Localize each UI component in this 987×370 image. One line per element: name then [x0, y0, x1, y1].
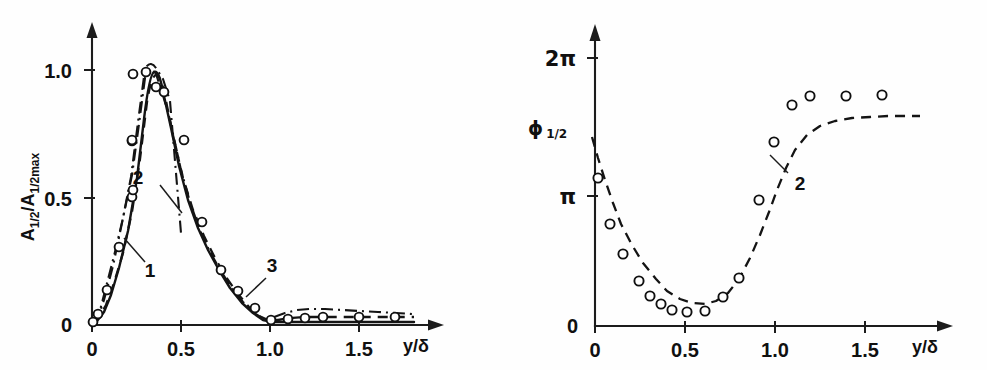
data-point	[142, 68, 151, 77]
left-data-points	[89, 68, 400, 327]
ylabel-A1: A	[18, 228, 38, 241]
right-xtick-label-15: 1.5	[851, 339, 879, 361]
data-point	[805, 91, 814, 100]
left-xtick-label-0: 0	[86, 338, 97, 360]
data-point	[234, 287, 243, 296]
data-point	[656, 299, 665, 308]
data-point	[605, 219, 614, 228]
ylabel-sub-1: 1/2	[28, 211, 42, 228]
data-point	[618, 249, 627, 258]
data-point	[754, 195, 763, 204]
left-xtick-label-10: 1.0	[256, 338, 284, 360]
left-y-axis-title: A1/2/A1/2max	[18, 152, 42, 241]
data-point	[769, 137, 778, 146]
axis-arrow-icon	[87, 22, 98, 38]
data-point	[718, 292, 727, 301]
right-ytick-label-0: 0	[567, 315, 578, 337]
axis-arrow-icon	[590, 24, 601, 41]
leader-line-3	[246, 278, 266, 297]
data-point	[682, 307, 691, 316]
curve-2-dashed-right	[592, 116, 920, 304]
right-data-points	[593, 90, 886, 316]
svg-text:A1/2/A1/2max: A1/2/A1/2max	[18, 152, 42, 241]
data-point	[734, 273, 743, 282]
data-point	[198, 218, 207, 227]
left-y-axis	[87, 22, 98, 325]
left-xtick-label-15: 1.5	[345, 338, 373, 360]
left-chart-svg: 1.0 0.5 0 0 0.5 1.0 1.5 y/δ A1/2/A1/2max…	[0, 0, 470, 370]
data-point	[787, 100, 796, 109]
data-point	[645, 291, 654, 300]
right-y-axis-title: ϕ1/2	[528, 117, 567, 141]
right-ytick-label-pi: π	[559, 185, 576, 209]
phi-symbol: ϕ	[528, 117, 543, 139]
svg-text:π: π	[559, 185, 576, 209]
chart-panel-left: 1.0 0.5 0 0 0.5 1.0 1.5 y/δ A1/2/A1/2max…	[0, 0, 470, 370]
right-xtick-label-0: 0	[589, 339, 600, 361]
leader-line-2-right	[770, 155, 788, 173]
data-point	[593, 173, 602, 182]
data-point	[128, 136, 137, 145]
left-xtick-label-05: 0.5	[167, 338, 195, 360]
curve-label-3: 3	[267, 255, 278, 276]
data-point	[634, 276, 643, 285]
data-point	[667, 305, 676, 314]
data-point	[319, 313, 328, 322]
data-point	[355, 313, 364, 322]
data-point	[129, 70, 138, 79]
axis-arrow-icon	[428, 320, 444, 331]
curve-label-2: 2	[133, 167, 144, 188]
figure-root: 1.0 0.5 0 0 0.5 1.0 1.5 y/δ A1/2/A1/2max…	[0, 0, 987, 370]
right-xtick-label-10: 1.0	[761, 339, 789, 361]
curve-label-2-right: 2	[795, 173, 806, 194]
right-chart-svg: 2π π 0 0 0.5 1.0 1.5 y/δ ϕ1/2 2	[520, 0, 987, 370]
data-point	[115, 243, 124, 252]
data-point	[700, 306, 709, 315]
data-point	[160, 88, 169, 97]
axis-arrow-icon	[937, 321, 953, 332]
ylabel-sub-2: 1/2max	[28, 152, 42, 193]
curve-3-dashdot-main	[93, 70, 412, 322]
leader-line-1	[124, 238, 145, 262]
data-point	[267, 316, 276, 325]
data-point	[217, 266, 226, 275]
right-ytick-label-2pi: 2π	[545, 47, 576, 71]
data-point	[391, 313, 400, 322]
data-point	[841, 91, 850, 100]
data-point	[103, 286, 112, 295]
data-point	[180, 136, 189, 145]
phi-subscript: 1/2	[546, 127, 567, 141]
curve-label-1: 1	[145, 260, 156, 281]
ylabel-mid: /A	[18, 194, 38, 212]
chart-panel-right: 2π π 0 0 0.5 1.0 1.5 y/δ ϕ1/2 2	[520, 0, 987, 370]
data-point	[251, 304, 260, 313]
svg-text:ϕ1/2: ϕ1/2	[528, 117, 567, 141]
left-x-axis-title: y/δ	[403, 336, 429, 356]
svg-text:2π: 2π	[545, 47, 576, 71]
data-point	[284, 315, 293, 324]
right-x-axis-title: y/δ	[912, 337, 938, 357]
left-ytick-label-0: 0	[61, 314, 72, 336]
data-point	[94, 310, 103, 319]
left-ytick-label-1: 1.0	[44, 60, 72, 82]
left-ytick-label-05: 0.5	[44, 188, 72, 210]
left-y-ticks	[84, 70, 95, 198]
data-point	[301, 314, 310, 323]
data-point	[877, 90, 886, 99]
right-xtick-label-05: 0.5	[671, 339, 699, 361]
